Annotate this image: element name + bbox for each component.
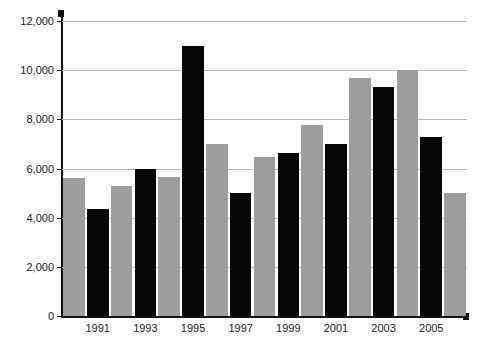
bar-chart: 02,0004,0006,0008,00010,00012,000 199119… — [0, 0, 499, 354]
x-axis-tick-label: 1997 — [228, 323, 252, 334]
bar-1992[interactable] — [111, 186, 133, 316]
bar-1996[interactable] — [206, 144, 228, 316]
bar-2003[interactable] — [373, 87, 395, 316]
bar-1993[interactable] — [135, 169, 157, 317]
x-axis-tick-label: 2001 — [324, 323, 348, 334]
y-axis-tick-label: 8,000 — [26, 114, 54, 125]
bar-2004[interactable] — [397, 70, 419, 316]
plot-area: 02,0004,0006,0008,00010,00012,000 — [62, 21, 467, 316]
bar-2006[interactable] — [444, 193, 466, 316]
y-axis-tick-label: 6,000 — [26, 163, 54, 174]
bar-1995[interactable] — [182, 46, 204, 316]
x-axis-tick-label: 1993 — [133, 323, 157, 334]
x-axis-line — [61, 316, 468, 318]
x-axis-tick-label: 2005 — [419, 323, 443, 334]
bar-2001[interactable] — [325, 144, 347, 316]
x-axis-tick-label: 1995 — [181, 323, 205, 334]
y-axis-tick-label: 4,000 — [26, 212, 54, 223]
bar-2005[interactable] — [420, 137, 442, 316]
bar-1991[interactable] — [87, 209, 109, 316]
bar-1994[interactable] — [158, 177, 180, 316]
bar-1999[interactable] — [278, 153, 300, 316]
x-axis-tick-label: 1991 — [85, 323, 109, 334]
bars — [62, 21, 467, 316]
x-axis-tick-labels: 19911993199519971999200120032005 — [62, 321, 467, 345]
y-axis-tick-label: 12,000 — [20, 16, 54, 27]
x-axis-tick-label: 1999 — [276, 323, 300, 334]
x-axis-tick-label: 2003 — [371, 323, 395, 334]
y-axis-tick-label: 0 — [48, 311, 54, 322]
bar-2000[interactable] — [301, 125, 323, 316]
bar-1990[interactable] — [63, 178, 85, 316]
bar-1997[interactable] — [230, 193, 252, 316]
bar-2002[interactable] — [349, 78, 371, 316]
bar-1998[interactable] — [254, 157, 276, 316]
y-axis-tick-label: 10,000 — [20, 65, 54, 76]
y-axis-tick-label: 2,000 — [26, 261, 54, 272]
y-axis-tick-mark — [57, 316, 62, 317]
